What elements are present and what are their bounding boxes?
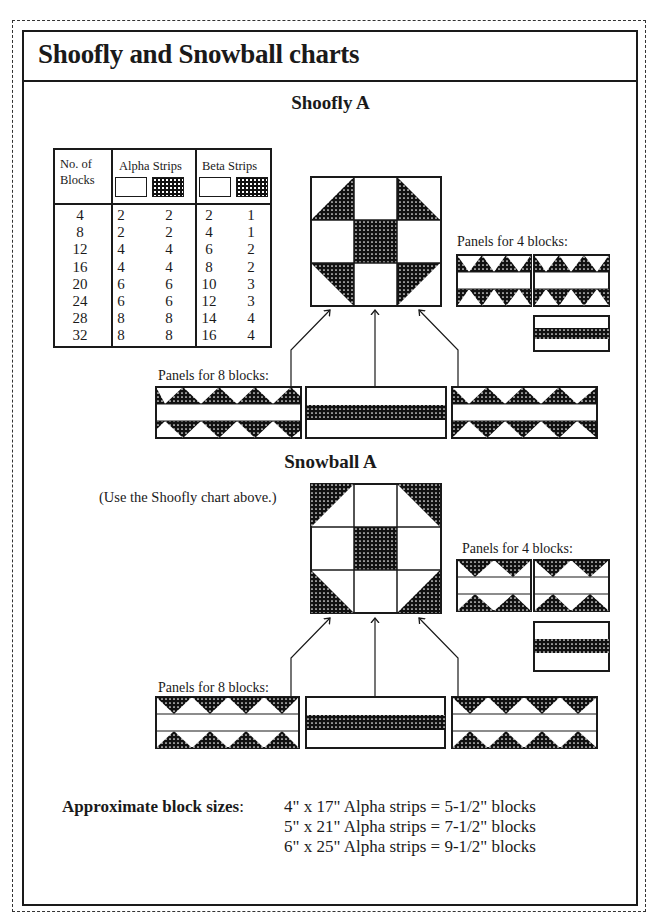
- page-title: Shoofly and Snowball charts: [38, 39, 359, 70]
- beta-dark-swatch: [236, 177, 268, 197]
- shoofly-heading: Shoofly A: [0, 92, 661, 114]
- strip-count-table: No. of Blocks Alpha Strips Beta Strips 4…: [53, 148, 272, 348]
- block-size-line: 4" x 17" Alpha strips = 5-1/2" blocks: [284, 797, 536, 817]
- snowball-panels-4-label: Panels for 4 blocks:: [462, 541, 573, 557]
- snowball-heading: Snowball A: [0, 451, 661, 473]
- shoofly-block-diagram: [310, 176, 443, 308]
- alpha-light-swatch: [115, 177, 147, 197]
- block-size-line: 5" x 21" Alpha strips = 7-1/2" blocks: [284, 817, 536, 837]
- block-size-line: 6" x 25" Alpha strips = 9-1/2" blocks: [284, 837, 536, 857]
- block-sizes-label-text: Approximate block sizes: [62, 797, 239, 816]
- shoofly-panels-8-label: Panels for 8 blocks:: [158, 368, 269, 384]
- column-blocks: 4 8 12 16 20 24 28 32: [65, 207, 95, 345]
- shoofly-panels-4-label: Panels for 4 blocks:: [457, 234, 568, 250]
- column-alpha-dark: 2 2 4 4 6 6 8 8: [159, 207, 179, 345]
- header-beta-strips: Beta Strips: [202, 158, 257, 174]
- block-sizes-colon: :: [239, 797, 244, 816]
- header-blocks-line2: Blocks: [60, 172, 95, 188]
- block-sizes-label: Approximate block sizes:: [62, 797, 244, 817]
- table-header-divider: [55, 203, 270, 205]
- snowball-panels-8-label: Panels for 8 blocks:: [158, 680, 269, 696]
- beta-light-swatch: [199, 177, 231, 197]
- column-beta-dark: 1 1 2 2 3 3 4 4: [241, 207, 261, 345]
- column-beta-light: 2 4 6 8 10 12 14 16: [197, 207, 221, 345]
- title-bar: Shoofly and Snowball charts: [24, 32, 636, 82]
- block-sizes-list: 4" x 17" Alpha strips = 5-1/2" blocks 5"…: [284, 797, 536, 857]
- snowball-block-diagram: [310, 483, 443, 615]
- shoofly-panels-8-diagram: [155, 386, 600, 441]
- shoofly-connector-arrows: [280, 300, 480, 390]
- snowball-connector-arrows: [280, 608, 480, 698]
- column-alpha-light: 2 2 4 4 6 6 8 8: [111, 207, 131, 345]
- header-blocks-line1: No. of: [60, 156, 92, 172]
- header-alpha-strips: Alpha Strips: [119, 158, 182, 174]
- snowball-note: (Use the Shoofly chart above.): [99, 489, 277, 506]
- alpha-dark-swatch: [152, 177, 184, 197]
- snowball-panels-8-diagram: [155, 696, 600, 751]
